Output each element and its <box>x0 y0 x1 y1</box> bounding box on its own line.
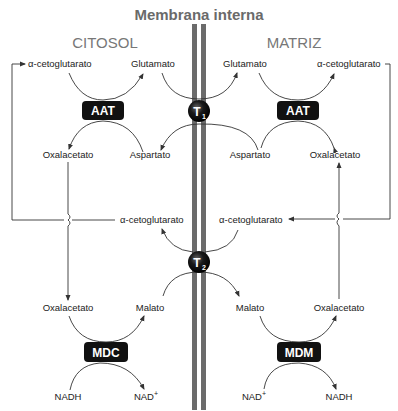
metabolite-glutamato-matrix: Glutamato <box>223 58 267 69</box>
metabolite-oxalacetato-matrix-bottom: Oxalacetato <box>314 302 365 313</box>
metabolite-malato-cytosol: Malato <box>136 302 165 313</box>
svg-text:2: 2 <box>202 264 206 271</box>
metabolite-aspartato-matrix: Aspartato <box>230 149 271 160</box>
enzyme-label-aat-cytosol: AAT <box>91 104 115 118</box>
metabolite-nadh-matrix: NADH <box>326 391 353 402</box>
region-label-matriz: MATRIZ <box>267 34 322 51</box>
metabolite-malato-matrix: Malato <box>236 302 265 313</box>
metabolite-akg-cytosol-top: α-cetoglutarato <box>28 58 92 69</box>
metabolite-oxalacetato-cytosol-top: Oxalacetato <box>43 149 94 160</box>
malate-aspartate-shuttle-diagram: Membrana interna CITOSOL MATRIZ α-cetogl… <box>0 0 398 411</box>
metabolite-oxalacetato-cytosol-bottom: Oxalacetato <box>43 302 94 313</box>
membrane-title: Membrana interna <box>134 6 264 23</box>
region-label-citosol: CITOSOL <box>72 34 138 51</box>
inner-membrane <box>192 24 206 410</box>
metabolite-aspartato-cytosol: Aspartato <box>130 149 171 160</box>
metabolite-nadh-cytosol: NADH <box>55 391 82 402</box>
metabolite-glutamato-cytosol: Glutamato <box>131 58 175 69</box>
metabolite-akg-matrix-top: α-cetoglutarato <box>317 58 381 69</box>
metabolite-nad-matrix: NAD+ <box>242 390 266 402</box>
metabolite-akg-matrix-mid: α-cetoglutarato <box>219 214 283 225</box>
svg-text:1: 1 <box>202 113 206 120</box>
svg-text:T: T <box>193 256 201 270</box>
enzyme-label-mdc: MDC <box>92 346 120 360</box>
transporter-t2: T 2 <box>188 251 210 273</box>
transporter-t1: T 1 <box>188 100 210 122</box>
enzyme-label-aat-matrix: AAT <box>286 104 310 118</box>
svg-text:T: T <box>193 105 201 119</box>
metabolite-akg-cytosol-mid: α-cetoglutarato <box>120 214 184 225</box>
metabolite-oxalacetato-matrix-top: Oxalacetato <box>310 149 361 160</box>
enzyme-label-mdm: MDM <box>285 346 314 360</box>
metabolite-nad-cytosol: NAD+ <box>134 390 158 402</box>
